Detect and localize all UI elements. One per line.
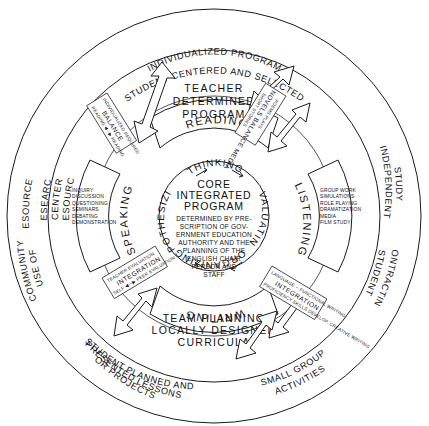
core-heading-line-2: PROGRAM — [184, 200, 244, 212]
listening-item-4: MEDIA — [320, 214, 337, 219]
reading-heading-line-0: TEACHER — [184, 82, 243, 94]
speaking-item-3: SEMINARS — [72, 207, 99, 212]
core-body-line-2: ERNMENT EDUCATION — [176, 231, 252, 238]
core-body-line-7: STAFF — [203, 271, 224, 278]
listening-item-1: SIMULATIONS — [320, 194, 355, 199]
core-body-line-4: PLANNING OF THE — [183, 247, 246, 254]
listening-item-0: GROUP WORK — [320, 188, 357, 193]
speaking-item-5: DEMONSTRATION — [72, 220, 117, 225]
speaking-item-1: DISCUSSION — [72, 194, 104, 199]
speaking-item-4: DEBATING — [72, 214, 98, 219]
core-body-text: DETERMINED BY PRE- SCRIPTION OF GOV- ERN… — [176, 215, 252, 278]
core-body-line-5: ENGLISH CHAIR — [187, 255, 241, 262]
balance-writing-right-bottom: PROFICIENCY SKILLS DEVELOP. CREATIVE WRI… — [262, 282, 371, 350]
outer-label-resource: RESOURCE — [0, 0, 76, 221]
listening-activity-list: GROUP WORK SIMULATIONS ROLE PLAYING DRAM… — [320, 188, 361, 225]
circular-diagram: INDIVIDUALIZED PROGRAM STUDENT CENTERED … — [0, 0, 429, 426]
speaking-item-2: QUESTIONING — [72, 201, 108, 206]
core-body-line-1: SCRIPTION OF GOV- — [180, 223, 249, 230]
outer-label-study: STUDY — [392, 166, 404, 201]
core-body-line-3: AUTHORITY AND THE — [178, 239, 250, 246]
diagram-canvas: INDIVIDUALIZED PROGRAM STUDENT CENTERED … — [0, 0, 429, 426]
outer-label-resources: RESOURCES — [0, 0, 35, 229]
listening-item-5: FILM STUDY — [320, 220, 351, 225]
sector-label-speaking: SPEAKING — [117, 183, 138, 257]
sector-label-listening: LISTENING — [293, 181, 314, 259]
balance-box-reading-left: INDIVIDUALIZED REQUIRED BALANCE READING … — [87, 93, 144, 164]
listening-item-3: DRAMATIZATION — [320, 207, 361, 212]
balance-box-writing-right: LANGUAGE ─ FUNCTIONAL WRITING INTEGRATIO… — [260, 266, 380, 351]
speaking-item-0: INQUIRY — [72, 188, 94, 193]
writing-heading-line-0: TEAM PLANNING — [163, 312, 266, 324]
core-heading: CORE INTEGRATED PROGRAM — [177, 178, 252, 212]
reading-heading-line-1: DETERMINED — [173, 95, 255, 107]
core-body-line-0: DETERMINED BY PRE- — [176, 215, 251, 222]
listening-item-2: ROLE PLAYING — [320, 201, 357, 206]
